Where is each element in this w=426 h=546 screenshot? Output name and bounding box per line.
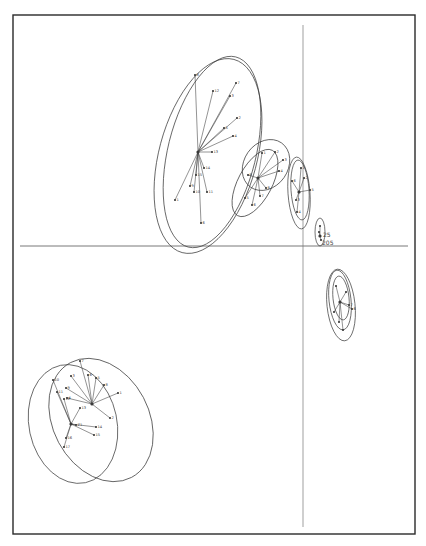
point-label: 5 [247, 196, 249, 200]
point-label: 3 [73, 374, 75, 378]
point-label: 4 [281, 169, 284, 173]
spider-line [198, 128, 224, 152]
point-label: 14 [206, 166, 211, 170]
spider-line [340, 292, 346, 302]
spider-line [258, 152, 275, 178]
data-point [338, 321, 340, 323]
point-label: 4 [235, 134, 238, 138]
spider-line [336, 286, 340, 302]
point-label: 6 [254, 203, 257, 207]
point-label: 12 [66, 397, 71, 401]
confidence-ellipse [232, 130, 299, 199]
spider-line [258, 178, 260, 196]
data-point [335, 285, 337, 287]
confidence-ellipse [135, 47, 281, 266]
point-label: 7 [262, 194, 264, 198]
point-label: 15 [96, 433, 101, 437]
point-label: 6 [294, 179, 297, 183]
point-label: 8 [268, 186, 271, 190]
ordination-plot: 8127325416910111314151234567891234567673… [0, 0, 426, 546]
point-label: 10 [55, 378, 60, 382]
spider-line [198, 96, 230, 152]
point-label: 17 [66, 445, 71, 449]
point-label: 16 [68, 436, 73, 440]
point-label: 8 [106, 383, 109, 387]
point-label: 14 [98, 425, 103, 429]
centroid-marker [297, 190, 300, 193]
data-point [318, 231, 320, 233]
cluster-group-axis-right: 123456 [286, 156, 314, 229]
spider-line [195, 75, 198, 152]
point-label: 1 [120, 391, 122, 395]
point-label: 1 [303, 166, 305, 170]
point-label: 13 [214, 150, 219, 154]
point-label: 3 [285, 158, 287, 162]
annotations: 25205 [322, 231, 334, 246]
centroid-marker [90, 402, 93, 405]
spider-line [258, 153, 262, 178]
point-label: 2 [306, 176, 308, 180]
centroid-marker [69, 422, 72, 425]
point-label: Z1 [78, 423, 83, 427]
centroid-marker [318, 234, 321, 237]
data-point [342, 329, 344, 331]
spider-line [340, 302, 343, 330]
point-label: 11 [59, 390, 64, 394]
spider-line [252, 178, 258, 205]
point-label: 3 [232, 94, 234, 98]
point-label: 4 [299, 210, 302, 214]
data-point [345, 291, 347, 293]
confidence-ellipse [323, 268, 358, 343]
spider-line [339, 302, 340, 322]
point-label: 7 [82, 359, 84, 363]
cluster-group-large-upper: 812732541691011131415 [135, 46, 281, 265]
point-label: 5 [226, 126, 228, 130]
point-label: 2 [239, 116, 241, 120]
point-label: 6 [203, 221, 206, 225]
point-label: 11 [209, 190, 214, 194]
data-point [333, 311, 335, 313]
centroid-marker [338, 300, 341, 303]
spider-line [92, 378, 96, 404]
cluster-group-lower-left-a: 736581294 [28, 340, 174, 500]
point-label: 1 [264, 151, 266, 155]
cluster-groups: 8127325416910111314151234567891234567673… [17, 46, 358, 500]
point-label: 12 [215, 89, 220, 93]
spider-line [92, 385, 104, 404]
spider-line [92, 393, 118, 404]
point-label: 5 [312, 188, 314, 192]
spider-line [198, 91, 213, 152]
spider-line [190, 152, 198, 186]
point-label: 15 [198, 173, 203, 177]
centroid-marker [256, 176, 259, 179]
point-label: 1 [177, 198, 179, 202]
cluster-group-right-lower: 76 [323, 268, 358, 343]
axis-annotation: 25 [323, 231, 331, 238]
axis-annotation: 205 [322, 239, 334, 246]
confidence-ellipse [28, 340, 174, 500]
scatter-figure: 8127325416910111314151234567891234567673… [0, 0, 426, 546]
point-label: 13 [82, 406, 87, 410]
point-label: 6 [354, 307, 357, 311]
point-label: 9 [68, 386, 71, 390]
point-label: 10 [196, 190, 201, 194]
spider-line [334, 302, 340, 312]
point-label: 2 [277, 150, 279, 154]
spider-line [64, 399, 71, 424]
point-label: 7 [238, 81, 240, 85]
centroid-marker [196, 150, 199, 153]
point-label: 2 [112, 416, 114, 420]
spider-line [92, 404, 110, 418]
point-label: 7 [351, 303, 353, 307]
data-point [319, 225, 321, 227]
point-label: 9 [192, 184, 195, 188]
spider-line [71, 408, 80, 424]
spider-line [258, 160, 283, 178]
spider-line [299, 190, 310, 192]
